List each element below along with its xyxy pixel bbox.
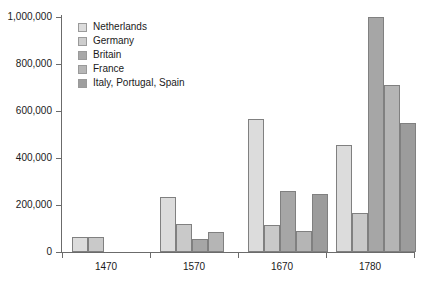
legend-item: France <box>78 62 185 76</box>
y-axis-tick-label: 1,000,000 <box>0 12 52 22</box>
x-axis-tick-mark <box>414 253 415 258</box>
legend-swatch-icon <box>78 23 87 32</box>
legend-swatch-icon <box>78 79 87 88</box>
y-axis-tick-label: 400,000 <box>0 153 52 163</box>
legend-item-label: Italy, Portugal, Spain <box>93 78 185 88</box>
y-axis-tick-label: 600,000 <box>0 106 52 116</box>
bar <box>88 237 104 252</box>
bar <box>336 145 352 252</box>
x-axis-tick-label: 1570 <box>164 262 224 272</box>
y-axis-tick-mark <box>56 17 61 18</box>
bar <box>72 237 88 252</box>
x-axis-tick-label: 1780 <box>340 262 400 272</box>
bar <box>352 213 368 252</box>
legend-swatch-icon <box>78 65 87 74</box>
x-axis-tick-label: 1670 <box>252 262 312 272</box>
bar-chart: 0200,000400,000600,000800,0001,000,000 1… <box>0 0 427 284</box>
bar <box>384 85 400 252</box>
bar <box>160 197 176 252</box>
y-axis-tick-mark <box>56 64 61 65</box>
x-axis-tick-mark <box>326 253 327 258</box>
y-axis-tick-label: 200,000 <box>0 200 52 210</box>
x-axis-tick-mark <box>150 253 151 258</box>
y-axis-tick-label: 0 <box>0 247 52 257</box>
legend-item: Germany <box>78 34 185 48</box>
legend-swatch-icon <box>78 51 87 60</box>
bar <box>248 119 264 252</box>
legend-item-label: France <box>93 64 124 74</box>
bar <box>176 224 192 252</box>
legend-item: Britain <box>78 48 185 62</box>
bar <box>296 231 312 252</box>
bar <box>368 17 384 252</box>
legend-item: Italy, Portugal, Spain <box>78 76 185 90</box>
bar <box>312 194 328 252</box>
legend-item-label: Netherlands <box>93 22 147 32</box>
legend-item-label: Britain <box>93 50 121 60</box>
chart-legend: NetherlandsGermanyBritainFranceItaly, Po… <box>78 20 185 90</box>
y-axis-tick-mark <box>56 205 61 206</box>
y-axis-tick-mark <box>56 158 61 159</box>
x-axis-tick-mark <box>238 253 239 258</box>
bar <box>264 225 280 252</box>
x-axis-tick-label: 1470 <box>76 262 136 272</box>
bar <box>192 239 208 252</box>
bar <box>400 123 416 252</box>
legend-item-label: Germany <box>93 36 134 46</box>
legend-item: Netherlands <box>78 20 185 34</box>
y-axis-tick-mark <box>56 111 61 112</box>
legend-swatch-icon <box>78 37 87 46</box>
bar <box>208 232 224 252</box>
bar <box>280 191 296 252</box>
x-axis-tick-mark <box>62 253 63 258</box>
y-axis-tick-label: 800,000 <box>0 59 52 69</box>
